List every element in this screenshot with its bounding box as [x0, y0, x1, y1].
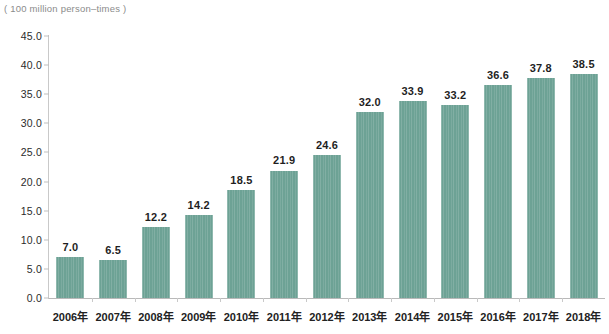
bar[interactable]	[185, 215, 213, 298]
y-axis-tick-label: 35.0	[0, 88, 42, 100]
x-axis-tick-mark	[434, 298, 435, 302]
bar-slot	[135, 36, 178, 298]
x-axis-category-label: 2006年	[49, 308, 92, 324]
x-axis-tick-mark	[135, 298, 136, 302]
x-axis-tick-mark	[220, 298, 221, 302]
bar-value-label: 33.2	[434, 89, 477, 101]
bar-slot	[306, 36, 349, 298]
x-axis-line	[49, 298, 605, 299]
y-axis-tick-label: 30.0	[0, 117, 42, 129]
x-axis-category-label: 2009年	[177, 308, 220, 324]
bar[interactable]	[527, 78, 555, 298]
y-axis-tick-label: 45.0	[0, 30, 42, 42]
bar[interactable]	[484, 85, 512, 298]
y-axis-tick-label: 20.0	[0, 176, 42, 188]
bar-slot	[434, 36, 477, 298]
x-axis-tick-mark	[519, 298, 520, 302]
x-axis-category-label: 2012年	[306, 308, 349, 324]
bar-slot	[562, 36, 605, 298]
bar-slot	[519, 36, 562, 298]
bar-value-label: 7.0	[49, 241, 92, 253]
x-axis-category-label: 2014年	[391, 308, 434, 324]
x-axis-category-label: 2013年	[348, 308, 391, 324]
x-axis-category-label: 2008年	[135, 308, 178, 324]
bar[interactable]	[356, 112, 384, 298]
bar[interactable]	[142, 227, 170, 298]
x-axis-tick-mark	[477, 298, 478, 302]
x-axis-tick-mark	[177, 298, 178, 302]
x-axis-tick-mark	[263, 298, 264, 302]
x-axis-tick-mark	[562, 298, 563, 302]
bar-value-label: 36.6	[477, 69, 520, 81]
bar[interactable]	[313, 155, 341, 298]
y-axis-tick-label: 5.0	[0, 263, 42, 275]
bar-value-label: 21.9	[263, 154, 306, 166]
bar-slot	[263, 36, 306, 298]
bar-value-label: 33.9	[391, 85, 434, 97]
bar-value-label: 14.2	[177, 199, 220, 211]
x-axis-category-label: 2011年	[263, 308, 306, 324]
x-axis-category-label: 2015年	[434, 308, 477, 324]
bar[interactable]	[570, 74, 598, 298]
bar-value-label: 24.6	[306, 139, 349, 151]
x-axis-category-label: 2007年	[92, 308, 135, 324]
bar-slot	[49, 36, 92, 298]
bar-chart: ( 100 million person–times ) 0.05.010.01…	[0, 0, 609, 334]
bar-slot	[348, 36, 391, 298]
x-axis-tick-mark	[391, 298, 392, 302]
bar[interactable]	[441, 105, 469, 298]
x-axis-tick-mark	[306, 298, 307, 302]
bar-value-label: 37.8	[519, 62, 562, 74]
bar[interactable]	[227, 190, 255, 298]
y-axis-tick-label: 10.0	[0, 234, 42, 246]
bar-slot	[391, 36, 434, 298]
bar[interactable]	[399, 101, 427, 298]
x-axis-tick-mark	[348, 298, 349, 302]
bar[interactable]	[56, 257, 84, 298]
x-axis-category-label: 2010年	[220, 308, 263, 324]
bar-slot	[220, 36, 263, 298]
y-axis-tick-label: 0.0	[0, 292, 42, 304]
x-axis-tick-mark	[92, 298, 93, 302]
bar-value-label: 6.5	[92, 244, 135, 256]
unit-caption: ( 100 million person–times )	[4, 3, 126, 14]
bar-value-label: 38.5	[562, 58, 605, 70]
x-axis-category-label: 2017年	[519, 308, 562, 324]
bar[interactable]	[99, 260, 127, 298]
bar-value-label: 18.5	[220, 174, 263, 186]
x-axis-category-label: 2016年	[477, 308, 520, 324]
y-axis-tick-label: 15.0	[0, 205, 42, 217]
bar-slot	[92, 36, 135, 298]
bar-slot	[177, 36, 220, 298]
x-axis-category-label: 2018年	[562, 308, 605, 324]
y-axis-tick-label: 25.0	[0, 146, 42, 158]
bar[interactable]	[270, 171, 298, 299]
bar-value-label: 32.0	[348, 96, 391, 108]
y-axis-tick-label: 40.0	[0, 59, 42, 71]
bar-value-label: 12.2	[135, 211, 178, 223]
